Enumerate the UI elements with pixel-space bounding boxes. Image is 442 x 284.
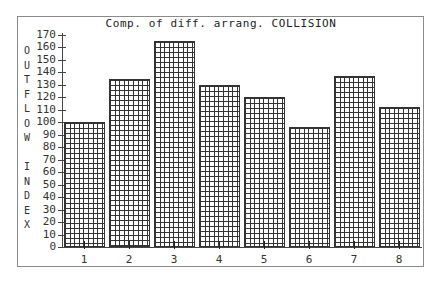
y-tick-label: 120 [28, 91, 56, 102]
x-axis [62, 247, 422, 248]
y-tick-label: 10 [28, 229, 56, 240]
y-tick-label: 40 [28, 191, 56, 202]
x-tick [309, 241, 310, 249]
y-tick-label: 110 [28, 104, 56, 115]
y-axis [62, 33, 63, 248]
y-tick-label: 20 [28, 216, 56, 227]
x-tick-label: 8 [389, 253, 409, 266]
bar-7 [334, 76, 375, 247]
chart-title: Comp. of diff. arrang. COLLISION [0, 17, 442, 30]
bar-5 [244, 97, 285, 247]
x-tick [264, 241, 265, 249]
bar-8 [379, 107, 420, 247]
y-tick [58, 247, 66, 248]
y-tick-label: 70 [28, 154, 56, 165]
x-tick [174, 241, 175, 249]
y-tick-label: 150 [28, 54, 56, 65]
x-tick [129, 241, 130, 249]
x-tick-label: 7 [344, 253, 364, 266]
x-tick-label: 2 [119, 253, 139, 266]
bar-1 [64, 122, 105, 247]
y-tick [58, 72, 66, 73]
x-tick [399, 241, 400, 249]
y-tick-label: 50 [28, 179, 56, 190]
x-tick-label: 4 [209, 253, 229, 266]
x-tick [219, 241, 220, 249]
x-tick [354, 241, 355, 249]
y-tick [58, 35, 66, 36]
x-tick-label: 6 [299, 253, 319, 266]
bar-4 [199, 85, 240, 247]
y-tick [58, 47, 66, 48]
x-tick-label: 1 [74, 253, 94, 266]
bar-2 [109, 79, 150, 247]
x-tick [84, 241, 85, 249]
y-tick-label: 30 [28, 204, 56, 215]
y-tick [58, 97, 66, 98]
y-tick-label: 80 [28, 141, 56, 152]
y-tick-label: 140 [28, 66, 56, 77]
bar-3 [154, 41, 195, 247]
y-tick [58, 60, 66, 61]
y-tick-label: 130 [28, 79, 56, 90]
x-tick-label: 5 [254, 253, 274, 266]
y-tick-label: 60 [28, 166, 56, 177]
y-tick-label: 170 [28, 29, 56, 40]
y-tick-label: 90 [28, 129, 56, 140]
x-tick-label: 3 [164, 253, 184, 266]
y-tick-label: 100 [28, 116, 56, 127]
y-tick-label: 160 [28, 41, 56, 52]
y-tick [58, 85, 66, 86]
y-tick-label: 0 [28, 241, 56, 252]
bar-6 [289, 127, 330, 247]
y-tick [58, 110, 66, 111]
